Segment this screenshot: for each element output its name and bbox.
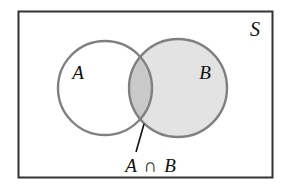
intersection-label-group: A ∩ B bbox=[123, 155, 176, 176]
set-b-label: B bbox=[199, 62, 211, 83]
set-a-label: A bbox=[70, 62, 84, 83]
intersection-operator-symbol: ∩ bbox=[143, 155, 157, 176]
intersection-label-set-a: A bbox=[123, 155, 137, 176]
venn-diagram-canvas: S A B A ∩ B bbox=[0, 0, 291, 190]
intersection-label-set-b: B bbox=[164, 155, 176, 176]
venn-diagram-figure: S A B A ∩ B bbox=[0, 0, 291, 190]
universal-set-label: S bbox=[250, 18, 260, 40]
